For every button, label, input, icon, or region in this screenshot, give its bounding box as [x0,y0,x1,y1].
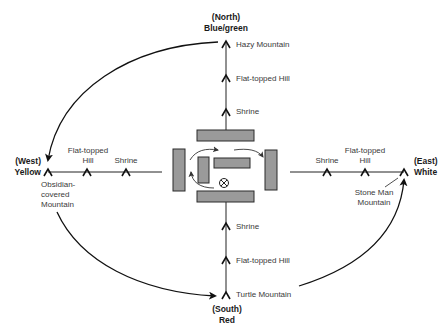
north-paren-label: (North) [212,12,240,22]
east-hill-label: Hill [359,156,370,165]
west-direction-label: (West) Yellow [15,156,42,177]
west-endpoint-label: Mountain [41,200,74,209]
west-endpoint-label: covered [41,190,69,199]
east-hill-label: Flat-topped [345,146,385,155]
north-direction-label: (North) Blue/green [204,12,248,33]
right-wall-block [265,150,277,190]
north-site-label: Hazy Mountain [236,40,289,49]
inner-vertical-block [198,157,209,183]
south-axis-sites: Shrine Flat-topped Hill Turtle Mountain [222,222,291,299]
west-paren-label: (West) [15,156,41,166]
west-hill-label: Flat-topped [68,146,108,155]
north-color-label: Blue/green [204,23,248,33]
south-site-label: Flat-topped Hill [236,256,290,265]
north-axis-sites: Hazy Mountain Flat-topped Hill Shrine [222,40,290,116]
west-color-label: Yellow [15,167,42,177]
south-paren-label: (South) [212,304,242,314]
top-wall-block [197,130,254,141]
left-wall-block [173,149,185,191]
north-site-label: Flat-topped Hill [236,74,290,83]
north-to-west-arrow [48,42,218,160]
west-axis-sites: Obsidian- covered Mountain Flat-topped H… [41,146,138,209]
cosmogram-diagram: (North) Blue/green Hazy Mountain Flat-to… [0,0,448,334]
south-direction-label: (South) Red [212,304,242,325]
west-shrine-label: Shrine [114,156,138,165]
north-site-label: Shrine [236,107,260,116]
south-color-label: Red [219,315,235,325]
inner-arrow-top-right [234,149,263,157]
stone-man-pointer-line [385,178,398,187]
east-axis-sites: Shrine Flat-topped Hill Stone Man Mounta… [315,146,408,207]
east-color-label: White [414,167,437,177]
central-structure [173,130,277,202]
west-to-south-arrow [57,212,215,296]
south-site-label: Shrine [236,222,260,231]
east-shrine-label: Shrine [315,156,339,165]
east-paren-label: (East) [414,156,438,166]
east-direction-label: (East) White [414,156,438,177]
east-endpoint-label: Stone Man [355,188,394,197]
center-marker-icon [220,179,229,188]
west-endpoint-label: Obsidian- [41,180,76,189]
east-endpoint-label: Mountain [358,198,391,207]
inner-horizontal-block [214,158,250,168]
bottom-wall-block [197,191,254,202]
south-site-label: Turtle Mountain [236,290,291,299]
mountain-peak-icon [222,292,230,299]
west-hill-label: Hill [82,156,93,165]
